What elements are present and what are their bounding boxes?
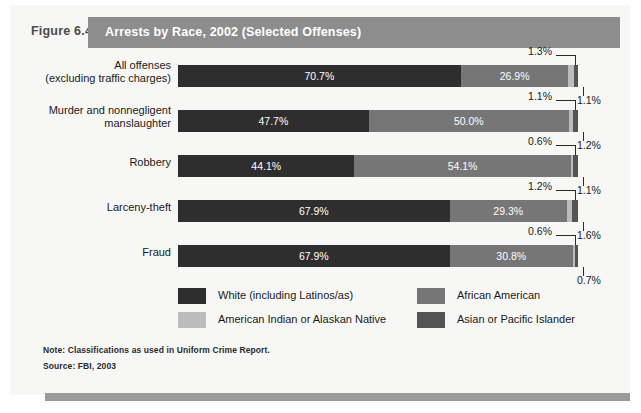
segment-value-white: 67.9% (178, 205, 450, 217)
row-label: Murder and nonnegligent manslaughter (11, 104, 171, 129)
row-label-line1: Murder and nonnegligent (11, 104, 171, 117)
segment-value-african-american: 54.1% (354, 160, 570, 172)
segment-value-white: 67.9% (178, 250, 450, 262)
legend-label: Asian or Pacific Islander (457, 313, 575, 325)
legend-label: White (including Latinos/as) (218, 289, 353, 301)
callout-american-indian: 1.1% (508, 90, 552, 102)
row-label: Robbery (11, 156, 171, 169)
row-label-line1: All offenses (11, 59, 171, 72)
legend-label: African American (457, 289, 540, 301)
bar-row: Fraud 0.6% 67.9% 30.8% 0.7% (11, 228, 630, 273)
segment-asian (574, 65, 578, 87)
chart-plot-area: All offenses (excluding traffic charges)… (11, 48, 630, 283)
segment-asian (573, 110, 578, 132)
segment-white: 47.7% (178, 110, 369, 132)
bar-row: Robbery 0.6% 44.1% 54.1% 1.1% (11, 138, 630, 183)
figure-title: Arrests by Race, 2002 (Selected Offenses… (105, 25, 361, 39)
row-label: All offenses (excluding traffic charges) (11, 59, 171, 84)
leader-line-horizontal (556, 145, 575, 146)
segment-value-white: 70.7% (178, 70, 461, 82)
leader-line-vertical (575, 55, 576, 65)
stacked-bar: 47.7% 50.0% (178, 110, 578, 132)
row-label: Fraud (11, 246, 171, 259)
figure-source: Source: FBI, 2003 (43, 361, 116, 371)
row-label-line1: Larceny-theft (11, 201, 171, 214)
segment-african-american: 30.8% (450, 245, 573, 267)
row-label: Larceny-theft (11, 201, 171, 214)
segment-white: 67.9% (178, 245, 450, 267)
segment-value-white: 47.7% (178, 115, 369, 127)
row-label-line1: Robbery (11, 156, 171, 169)
segment-african-american: 29.3% (450, 200, 567, 222)
segment-value-african-american: 29.3% (450, 205, 567, 217)
row-label-line2: (excluding traffic charges) (11, 72, 171, 85)
leader-line-vertical (575, 145, 576, 155)
legend-swatch-icon (178, 288, 206, 304)
segment-value-african-american: 26.9% (461, 70, 569, 82)
bar-row: Larceny-theft 1.2% 67.9% 29.3% 1.6% (11, 183, 630, 228)
figure-panel: Figure 6.4 Arrests by Race, 2002 (Select… (11, 5, 630, 395)
segment-african-american: 54.1% (354, 155, 570, 177)
bar-row: All offenses (excluding traffic charges)… (11, 48, 630, 93)
callout-asian: 0.7% (577, 274, 601, 286)
leader-line-vertical (575, 100, 576, 110)
leader-line-horizontal (556, 190, 575, 191)
segment-asian (575, 245, 578, 267)
segment-asian (572, 200, 578, 222)
leader-line-horizontal (556, 100, 575, 101)
leader-line-horizontal (556, 55, 575, 56)
segment-asian (573, 155, 577, 177)
segment-white: 44.1% (178, 155, 354, 177)
figure-note: Note: Classifications as used in Uniform… (43, 345, 270, 355)
figure-header: Figure 6.4 Arrests by Race, 2002 (Select… (11, 17, 630, 48)
legend-label: American Indian or Alaskan Native (218, 313, 386, 325)
leader-line-vertical (575, 190, 576, 200)
segment-value-african-american: 30.8% (450, 250, 573, 262)
figure-title-bar: Arrests by Race, 2002 (Selected Offenses… (88, 17, 620, 48)
segment-african-american: 50.0% (369, 110, 569, 132)
leader-line-vertical (575, 235, 576, 245)
bottom-rule (45, 393, 630, 401)
figure-number-label: Figure 6.4 (31, 24, 92, 38)
legend-swatch-icon (417, 312, 445, 328)
legend-swatch-icon (178, 312, 206, 328)
segment-value-white: 44.1% (178, 160, 354, 172)
callout-american-indian: 0.6% (508, 225, 552, 237)
row-label-line1: Fraud (11, 246, 171, 259)
leader-line-horizontal (556, 235, 575, 236)
bar-row: Murder and nonnegligent manslaughter 1.1… (11, 93, 630, 138)
callout-american-indian: 1.3% (508, 45, 552, 57)
stacked-bar: 67.9% 29.3% (178, 200, 578, 222)
segment-white: 67.9% (178, 200, 450, 222)
legend-swatch-icon (417, 288, 445, 304)
chart-legend: White (including Latinos/as) African Ame… (11, 288, 630, 334)
segment-african-american: 26.9% (461, 65, 569, 87)
stacked-bar: 44.1% 54.1% (178, 155, 578, 177)
callout-american-indian: 1.2% (508, 180, 552, 192)
segment-value-african-american: 50.0% (369, 115, 569, 127)
stacked-bar: 67.9% 30.8% (178, 245, 578, 267)
callout-american-indian: 0.6% (508, 135, 552, 147)
segment-white: 70.7% (178, 65, 461, 87)
row-label-line2: manslaughter (11, 117, 171, 130)
stacked-bar: 70.7% 26.9% (178, 65, 578, 87)
